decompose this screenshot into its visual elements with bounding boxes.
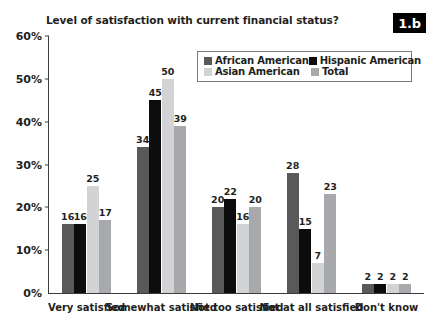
bar-slot: 39	[174, 36, 186, 293]
bar-value-label: 20	[249, 195, 262, 205]
bar-value-label: 17	[99, 208, 112, 218]
bar	[174, 126, 186, 293]
bar-value-label: 22	[224, 187, 237, 197]
bar	[249, 207, 261, 293]
bar-slot: 34	[137, 36, 149, 293]
bar-slot: 50	[162, 36, 174, 293]
bar-value-label: 2	[377, 272, 384, 282]
figure-number-badge: 1.b	[393, 13, 426, 33]
legend-label: Total	[322, 66, 348, 77]
bar-slot: 25	[87, 36, 99, 293]
bar	[287, 173, 299, 293]
chart-figure: Level of satisfaction with current finan…	[0, 0, 434, 331]
bar-value-label: 2	[389, 272, 396, 282]
bar	[324, 194, 336, 293]
legend-row: Asian AmericanTotal	[204, 66, 406, 77]
bar-value-label: 7	[314, 251, 321, 261]
legend-label: Asian American	[215, 66, 300, 77]
legend-item: African American	[204, 55, 309, 66]
bar	[387, 284, 399, 293]
bar	[99, 220, 111, 293]
bar-value-label: 50	[161, 67, 174, 77]
y-axis-tick-label: 50%	[16, 72, 49, 85]
bar-slot: 45	[149, 36, 161, 293]
bar	[137, 147, 149, 293]
bar	[224, 199, 236, 293]
bar	[87, 186, 99, 293]
bar-value-label: 16	[61, 212, 74, 222]
bar	[312, 263, 324, 293]
bar-value-label: 45	[149, 88, 162, 98]
bar-group: 16162517	[49, 36, 124, 293]
bar-value-label: 2	[364, 272, 371, 282]
bar-value-label: 39	[174, 114, 187, 124]
legend-item: Asian American	[204, 66, 311, 77]
bar	[237, 224, 249, 293]
legend-item: Hispanic American	[309, 55, 421, 66]
bar-value-label: 23	[324, 182, 337, 192]
bar	[362, 284, 374, 293]
x-axis-tick-label: Don't know	[355, 302, 419, 313]
bar	[162, 79, 174, 293]
bar	[62, 224, 74, 293]
bar	[149, 100, 161, 293]
bar	[299, 229, 311, 293]
bar-value-label: 28	[286, 161, 299, 171]
bar-value-label: 2	[402, 272, 409, 282]
bar-value-label: 15	[299, 217, 312, 227]
bar	[374, 284, 386, 293]
bar-value-label: 16	[74, 212, 87, 222]
y-axis-tick-label: 0%	[23, 287, 49, 300]
bar-value-label: 16	[236, 212, 249, 222]
bar	[212, 207, 224, 293]
legend-swatch-icon	[309, 57, 317, 65]
y-axis-tick-label: 40%	[16, 115, 49, 128]
legend-swatch-icon	[204, 68, 212, 76]
bar-slot: 16	[74, 36, 86, 293]
bar-value-label: 34	[136, 135, 149, 145]
legend-label: Hispanic American	[320, 55, 421, 66]
chart-title: Level of satisfaction with current finan…	[46, 14, 339, 26]
bar-value-label: 20	[211, 195, 224, 205]
bar-slot: 17	[99, 36, 111, 293]
bar	[399, 284, 411, 293]
chart-legend: African AmericanHispanic AmericanAsian A…	[197, 51, 412, 82]
x-axis-tick-label: Not at all satisfied	[260, 302, 364, 313]
y-axis-tick-label: 30%	[16, 158, 49, 171]
y-axis-tick-label: 10%	[16, 244, 49, 257]
legend-swatch-icon	[204, 57, 212, 65]
legend-label: African American	[215, 55, 309, 66]
legend-row: African AmericanHispanic American	[204, 55, 406, 66]
bar-slot: 16	[62, 36, 74, 293]
bar	[74, 224, 86, 293]
bar-group: 34455039	[124, 36, 199, 293]
y-axis-tick-label: 20%	[16, 201, 49, 214]
bar-value-label: 25	[86, 174, 99, 184]
legend-item: Total	[311, 66, 348, 77]
y-axis-tick-label: 60%	[16, 30, 49, 43]
legend-swatch-icon	[311, 68, 319, 76]
